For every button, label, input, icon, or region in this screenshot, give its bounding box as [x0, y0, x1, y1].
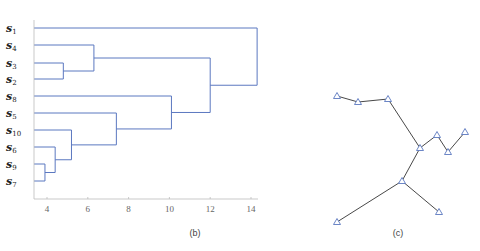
dendrogram-panel-b: s1s4s3s2s8s5s10s6s9s7	[6, 22, 257, 189]
x-tick-label: 10	[165, 204, 175, 214]
triangle-node-icon	[334, 219, 341, 225]
x-tick-label: 4	[45, 204, 50, 214]
caption-c: (c)	[393, 228, 404, 238]
leaf-label-s1: s1	[6, 22, 17, 36]
x-axis: 468101214	[34, 20, 258, 214]
graph-edge	[388, 99, 420, 148]
x-tick-label: 14	[247, 204, 257, 214]
triangle-node-icon	[385, 96, 392, 102]
graph-edge	[337, 96, 358, 102]
graph-edge	[402, 181, 439, 212]
triangle-node-icon	[334, 93, 341, 99]
triangle-node-icon	[417, 145, 424, 151]
triangle-node-icon	[434, 132, 441, 138]
x-tick-label: 8	[126, 204, 131, 214]
figure: s1s4s3s2s8s5s10s6s9s7 468101214 (b) (c)	[0, 0, 480, 251]
triangle-node-icon	[399, 178, 406, 184]
leaf-label-s7: s7	[6, 175, 17, 189]
leaf-label-s8: s8	[6, 90, 17, 104]
leaf-label-s4: s4	[6, 39, 17, 53]
leaf-label-s5: s5	[6, 107, 17, 121]
leaf-label-s3: s3	[6, 57, 17, 71]
triangle-node-icon	[462, 129, 469, 135]
graph-edge	[402, 148, 420, 181]
leaf-label-s9: s9	[6, 158, 17, 172]
x-tick-label: 6	[86, 204, 91, 214]
leaf-label-s2: s2	[6, 73, 17, 87]
graph-edge	[448, 132, 465, 152]
leaf-label-s10: s10	[6, 124, 21, 138]
x-tick-label: 12	[206, 204, 215, 214]
graph-edge	[337, 181, 402, 222]
leaf-label-s6: s6	[6, 141, 17, 155]
caption-b: (b)	[190, 228, 201, 238]
graph-edge	[358, 99, 388, 102]
tree-graph-panel-c	[334, 93, 469, 225]
